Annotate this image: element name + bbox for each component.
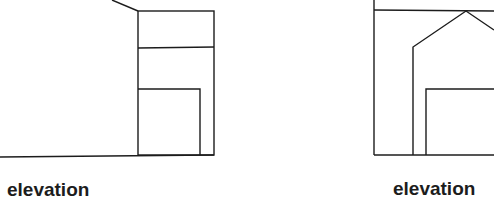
right-elevation-drawing	[374, 0, 494, 155]
tower-outline	[138, 11, 214, 155]
ground-line	[0, 155, 214, 157]
door-outline	[426, 89, 494, 155]
left-elevation-drawing	[0, 0, 214, 157]
door-outline	[138, 89, 200, 155]
roof-slope-line	[112, 0, 138, 11]
left-elevation-label: elevation	[7, 180, 89, 199]
top-band-line	[374, 10, 494, 11]
right-elevation-label: elevation	[393, 179, 475, 198]
tower-band-line	[138, 47, 214, 48]
elevation-drawings	[0, 0, 494, 199]
gable-outline	[413, 11, 494, 155]
